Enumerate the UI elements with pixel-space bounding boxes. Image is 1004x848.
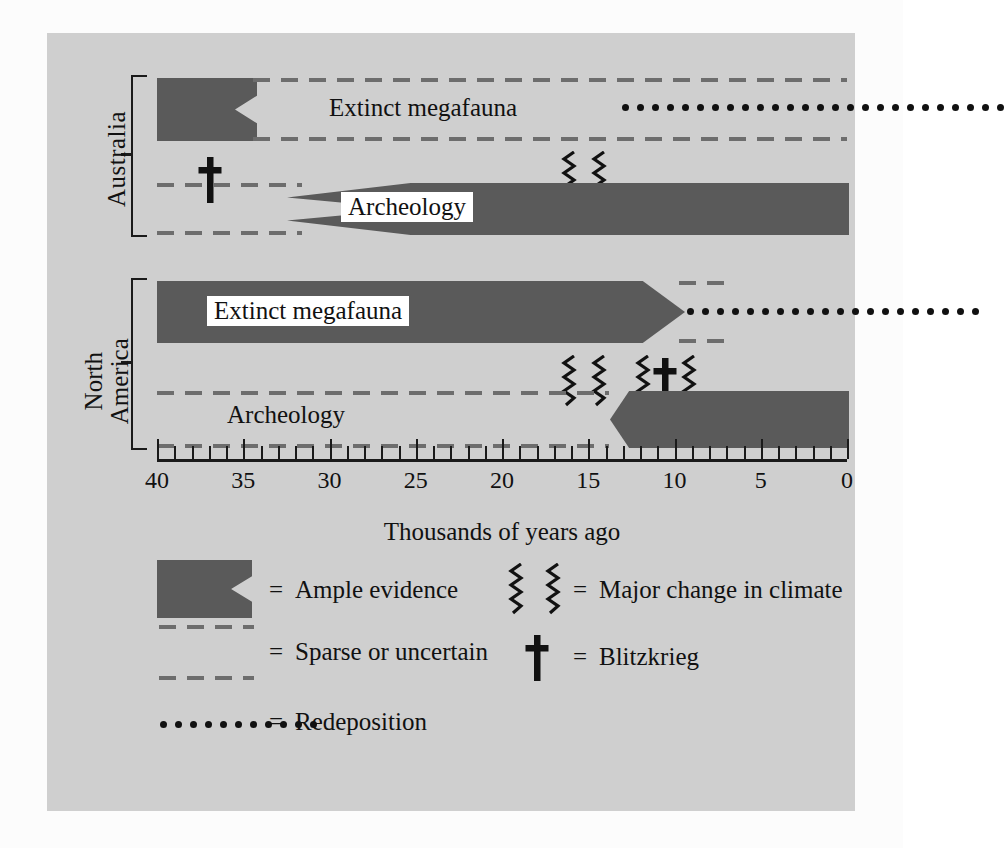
axis-tick-major (675, 439, 677, 459)
sparse-line-top (157, 183, 302, 187)
region-label-line2: America (107, 301, 133, 461)
axis-tick-minor (381, 446, 383, 459)
bar-ample-evidence (610, 391, 849, 448)
axis-tick-minor (726, 446, 728, 459)
bar-ample-evidence (157, 78, 257, 141)
sparse-dashed-swatch (159, 676, 254, 680)
axis-tick-minor (692, 446, 694, 459)
axis-tick-major (847, 439, 849, 459)
axis-tick-minor (192, 446, 194, 459)
series-label-au-megafauna: Extinct megafauna (329, 94, 517, 122)
climate-zigzag-icon (560, 355, 578, 407)
axis-tick-minor (537, 446, 539, 459)
region-label-north-america: North America (81, 301, 134, 461)
axis-tick-label: 30 (318, 467, 342, 494)
sparse-line-bottom (157, 231, 302, 235)
axis-tick-label: 15 (576, 467, 600, 494)
axis-tick-minor (623, 446, 625, 459)
legend-equals: = (573, 576, 587, 604)
sparse-line-top (157, 391, 609, 395)
axis-tick-minor (519, 446, 521, 459)
axis-tick-minor (278, 446, 280, 459)
series-label-au-archeology: Archeology (341, 192, 473, 222)
axis-tick-minor (640, 446, 642, 459)
legend-label: Blitzkrieg (599, 643, 699, 671)
axis-tick-minor (744, 446, 746, 459)
chart-panel: Australia Extinct megafauna (47, 33, 855, 811)
axis-title: Thousands of years ago (384, 518, 621, 546)
axis-tick-minor (571, 446, 573, 459)
axis-tick-minor (450, 446, 452, 459)
axis-tick-major (502, 439, 504, 459)
axis-tick-minor (347, 446, 349, 459)
axis-tick-minor (657, 446, 659, 459)
axis-tick-minor (468, 446, 470, 459)
legend-equals: = (269, 708, 283, 736)
legend-equals: = (573, 643, 587, 671)
legend-equals: = (269, 638, 283, 666)
axis-tick-label: 40 (145, 467, 169, 494)
axis-tick-minor (399, 446, 401, 459)
axis-tick-label: 20 (490, 467, 514, 494)
region-label-australia: Australia (103, 84, 131, 234)
sparse-line-top (253, 78, 847, 82)
axis-tick-label: 0 (841, 467, 853, 494)
axis-tick-label: 25 (404, 467, 428, 494)
axis-tick-minor (830, 446, 832, 459)
climate-zigzag-symbol (544, 563, 562, 615)
axis-tick-major (330, 439, 332, 459)
sparse-line-bottom (679, 339, 733, 343)
axis-tick-minor (778, 446, 780, 459)
axis-tick-minor (795, 446, 797, 459)
series-label-na-archeology: Archeology (227, 401, 345, 429)
sparse-line-top (679, 281, 733, 285)
axis-tick-minor (261, 446, 263, 459)
redeposition-dots (687, 308, 979, 315)
sparse-dashed-swatch (159, 625, 254, 629)
australia-bracket (131, 75, 147, 237)
axis-tick-label: 35 (231, 467, 255, 494)
axis-tick-major (416, 439, 418, 459)
axis-tick-minor (295, 446, 297, 459)
legend-label: Major change in climate (599, 576, 843, 604)
axis-tick-minor (364, 446, 366, 459)
axis-baseline (157, 459, 847, 462)
axis-tick-major (588, 439, 590, 459)
axis-tick-minor (433, 446, 435, 459)
axis-tick-major (157, 439, 159, 459)
region-label-line1: North (81, 301, 107, 461)
axis-tick-minor (813, 446, 815, 459)
legend-label: Sparse or uncertain (295, 638, 488, 666)
climate-zigzag-icon (590, 355, 608, 407)
legend-label: Ample evidence (295, 576, 458, 604)
redeposition-dotted-swatch (160, 721, 317, 728)
axis-tick-minor (226, 446, 228, 459)
axis-tick-minor (606, 446, 608, 459)
axis-tick-minor (485, 446, 487, 459)
legend-label: Redeposition (295, 708, 427, 736)
axis-tick-minor (174, 446, 176, 459)
axis-tick-label: 10 (663, 467, 687, 494)
axis-tick-major (243, 439, 245, 459)
north-america-bracket (131, 278, 147, 450)
series-label-na-megafauna: Extinct megafauna (207, 296, 409, 326)
axis-tick-minor (209, 446, 211, 459)
ample-evidence-swatch (157, 560, 252, 618)
redeposition-dots (622, 104, 1004, 111)
axis-tick-minor (709, 446, 711, 459)
axis-tick-minor (312, 446, 314, 459)
legend-equals: = (269, 576, 283, 604)
axis-tick-minor (554, 446, 556, 459)
sparse-line-bottom (253, 137, 847, 141)
blitzkrieg-dagger-icon (197, 157, 223, 203)
axis-tick-major (761, 439, 763, 459)
blitzkrieg-dagger-symbol (524, 635, 550, 681)
axis-tick-label: 5 (755, 467, 767, 494)
climate-zigzag-symbol (507, 563, 525, 615)
